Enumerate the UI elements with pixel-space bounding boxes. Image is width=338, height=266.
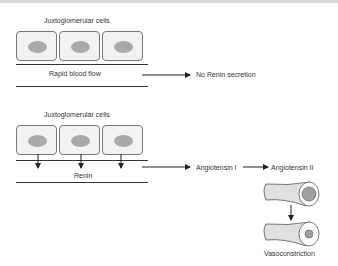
vessel-constricted-icon	[264, 222, 319, 246]
vessel-dilated-icon	[264, 182, 319, 206]
diagram-graphics	[0, 0, 338, 266]
